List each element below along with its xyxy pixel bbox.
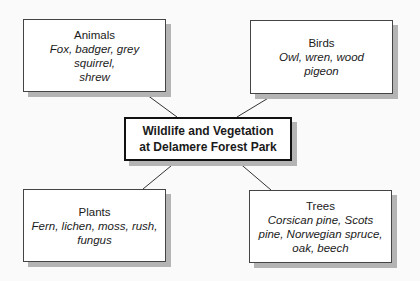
node-item-line: oak, beech	[292, 241, 348, 255]
node-title: Animals	[74, 28, 115, 42]
connector-birds	[237, 94, 275, 117]
node-birds: Birds Owl, wren, wood pigeon	[250, 20, 393, 94]
node-title: Plants	[79, 205, 111, 219]
center-title-line2: at Delamere Forest Park	[126, 139, 290, 155]
node-item-line: shrew	[79, 70, 110, 84]
node-item-line: Corsican pine, Scots	[268, 213, 373, 227]
node-title: Trees	[306, 199, 335, 213]
node-item-line: pigeon	[304, 64, 339, 78]
node-title: Birds	[308, 36, 334, 50]
node-item-line: pine, Norwegian spruce,	[258, 227, 382, 241]
node-trees: Trees Corsican pine, Scots pine, Norwegi…	[249, 190, 392, 263]
connector-trees	[237, 161, 271, 190]
node-item-line: Fern, lichen, moss, rush,	[32, 219, 158, 233]
node-animals: Animals Fox, badger, grey squirrel, shre…	[23, 19, 166, 92]
node-item-line: squirrel,	[74, 56, 115, 70]
node-plants: Plants Fern, lichen, moss, rush, fungus	[23, 189, 166, 262]
center-title-line1: Wildlife and Vegetation	[126, 123, 290, 139]
connector-plants	[143, 161, 177, 189]
node-item-line: fungus	[77, 233, 112, 247]
center-node: Wildlife and Vegetation at Delamere Fore…	[124, 117, 292, 161]
connector-animals	[143, 92, 177, 117]
node-item-line: Fox, badger, grey	[50, 42, 140, 56]
node-item-line: Owl, wren, wood	[279, 50, 364, 64]
